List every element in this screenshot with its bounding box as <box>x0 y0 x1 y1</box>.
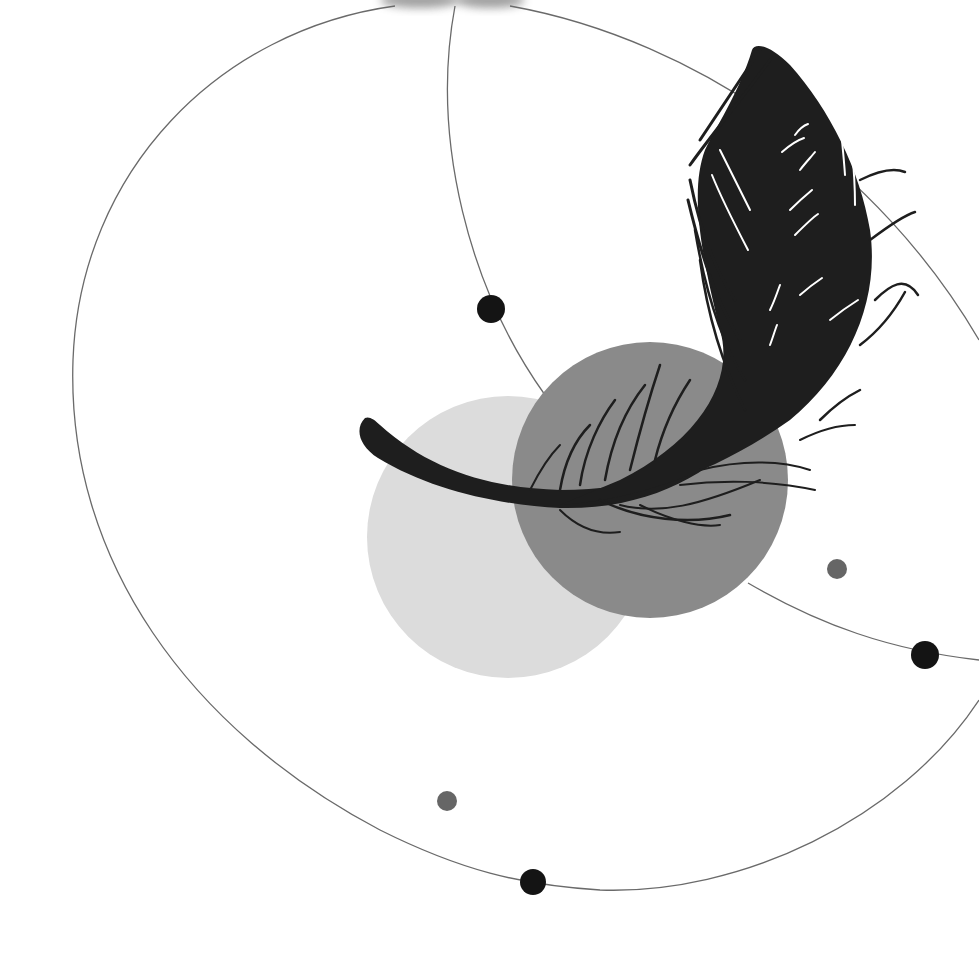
inner-orbit-line <box>448 6 545 395</box>
dark-dot-upper <box>477 295 505 323</box>
top-edge-smudge <box>380 0 525 8</box>
dark-dot-right <box>911 641 939 669</box>
gray-dot-right <box>827 559 847 579</box>
illustration-canvas <box>0 0 979 968</box>
dark-dot-bottom <box>520 869 546 895</box>
feather-illustration <box>0 0 979 968</box>
gray-dot-bottom <box>437 791 457 811</box>
inner-orbit-line-lower <box>748 583 979 660</box>
